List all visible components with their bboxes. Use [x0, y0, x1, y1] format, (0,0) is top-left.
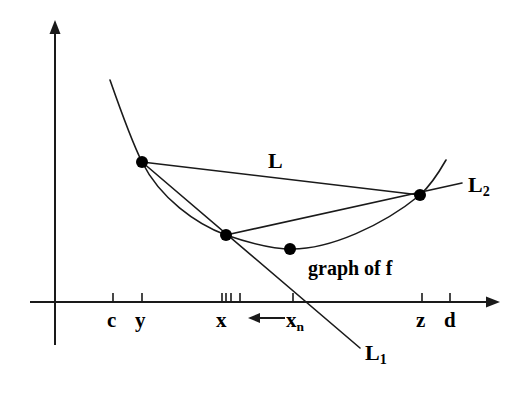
point-min: [284, 243, 296, 255]
line-label-line-L1: L1: [365, 342, 387, 366]
axis-label-c: c: [107, 310, 116, 331]
axis-label-xn-subscript: n: [297, 319, 304, 334]
axis-label-x-text: x: [216, 308, 227, 332]
line-label-line-L-text: L: [268, 148, 283, 173]
axes-group: [30, 20, 500, 345]
axis-label-xn: xn: [286, 310, 304, 333]
axis-label-y: y: [135, 310, 146, 331]
tick-marks-group: [113, 293, 450, 302]
point-x: [220, 229, 232, 241]
line-label-line-L1-subscript: 1: [380, 351, 387, 367]
axis-label-xn-text: x: [286, 308, 297, 332]
line-label-line-L1-text: L: [365, 340, 380, 365]
figure-root: cyxxnzdLL1L2graph of f: [0, 0, 527, 396]
sequence-arrow-group: [248, 313, 285, 323]
line-L2: [226, 183, 462, 235]
axis-label-d-text: d: [444, 308, 456, 332]
figure-canvas: [0, 0, 527, 396]
y-axis-arrowhead: [50, 20, 61, 34]
point-y: [136, 156, 148, 168]
axis-label-d: d: [444, 310, 456, 331]
line-label-line-L2-text: L: [468, 172, 483, 197]
curve-label: graph of f: [308, 258, 392, 278]
curve-label-text: graph of f: [308, 257, 392, 279]
axis-label-z: z: [416, 310, 425, 331]
line-label-line-L2: L2: [468, 174, 490, 198]
line-L1: [142, 162, 360, 348]
axis-label-z-text: z: [416, 308, 425, 332]
axis-label-y-text: y: [135, 308, 146, 332]
x-axis-arrowhead: [486, 297, 500, 308]
line-label-line-L2-subscript: 2: [483, 183, 490, 199]
sequence-arrow-head: [248, 313, 260, 323]
axis-label-x: x: [216, 310, 227, 331]
line-label-line-L: L: [268, 150, 283, 172]
axis-label-c-text: c: [107, 308, 116, 332]
point-z: [414, 189, 426, 201]
